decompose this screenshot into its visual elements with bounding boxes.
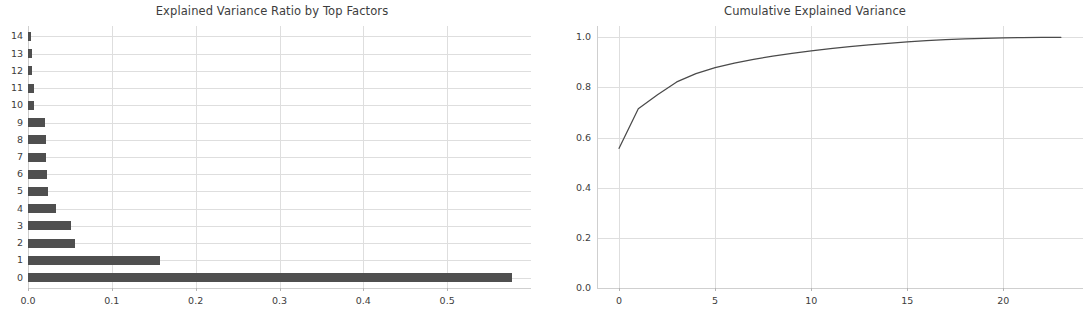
bar-factor-6 (28, 170, 47, 179)
x-tick-label: 15 (901, 296, 913, 306)
x-tick-label: 5 (712, 296, 718, 306)
gridline-vertical (280, 26, 281, 288)
bar-factor-5 (28, 187, 48, 196)
x-tick-label: 0.2 (188, 296, 203, 306)
bar-factor-12 (28, 66, 32, 75)
x-tickmark (907, 288, 908, 291)
y-tick-label: 10 (0, 101, 23, 111)
bar-factor-4 (28, 204, 56, 213)
bar-factor-14 (28, 32, 31, 41)
gridline-vertical (112, 26, 113, 288)
y-tick-label: 7 (0, 152, 23, 162)
bar-factor-11 (28, 84, 34, 93)
y-tick-label: 9 (0, 118, 23, 128)
bar-factor-0 (28, 273, 512, 282)
bar-factor-7 (28, 153, 46, 162)
y-tick-label: 1.0 (561, 33, 591, 43)
x-tickmark (112, 288, 113, 291)
y-tick-label: 0.8 (561, 83, 591, 93)
y-tick-label: 12 (0, 66, 23, 76)
bar-factor-1 (28, 256, 160, 265)
y-tick-label: 0 (0, 273, 23, 283)
explained-variance-bar-chart: Explained Variance Ratio by Top Factors … (0, 0, 544, 312)
cumulative-variance-curve (543, 0, 1087, 312)
bar-factor-8 (28, 135, 46, 144)
right-plot-area: 0.00.20.40.60.81.005101520 (543, 0, 1087, 312)
y-tick-label: 4 (0, 204, 23, 214)
x-tick-label: 0.0 (20, 296, 35, 306)
y-tick-label: 0.4 (561, 183, 591, 193)
x-tick-label: 0.4 (356, 296, 371, 306)
y-tick-label: 5 (0, 187, 23, 197)
y-tick-label: 8 (0, 135, 23, 145)
y-tick-label: 14 (0, 32, 23, 42)
figure-canvas: Explained Variance Ratio by Top Factors … (0, 0, 1087, 312)
x-tickmark (715, 288, 716, 291)
y-tick-label: 1 (0, 256, 23, 266)
y-tick-label: 0.6 (561, 133, 591, 143)
gridline-vertical (196, 26, 197, 288)
bar-factor-10 (28, 101, 34, 110)
bar-factor-13 (28, 49, 32, 58)
y-tick-label: 11 (0, 83, 23, 93)
x-tickmark (196, 288, 197, 291)
x-tick-label: 0.1 (104, 296, 119, 306)
x-tick-label: 0 (616, 296, 622, 306)
y-tick-label: 3 (0, 221, 23, 231)
y-tick-label: 0.0 (561, 283, 591, 293)
y-tick-label: 13 (0, 49, 23, 59)
x-tickmark (363, 288, 364, 291)
cumulative-variance-line-chart: Cumulative Explained Variance 0.00.20.40… (543, 0, 1087, 312)
x-tickmark (280, 288, 281, 291)
x-tickmark (28, 288, 29, 291)
x-tick-label: 0.5 (440, 296, 455, 306)
gridline-vertical (447, 26, 448, 288)
gridline-vertical (363, 26, 364, 288)
x-tickmark (619, 288, 620, 291)
bar-factor-9 (28, 118, 45, 127)
x-tickmark (1003, 288, 1004, 291)
x-tick-label: 0.3 (272, 296, 287, 306)
y-tick-label: 6 (0, 169, 23, 179)
x-tickmark (447, 288, 448, 291)
bar-factor-2 (28, 239, 75, 248)
x-tick-label: 20 (997, 296, 1009, 306)
x-tickmark (811, 288, 812, 291)
variance-line-path (619, 37, 1061, 148)
left-plot-area: 012345678910111213140.00.10.20.30.40.5 (0, 0, 544, 312)
bar-factor-3 (28, 221, 71, 230)
y-tick-label: 0.2 (561, 233, 591, 243)
y-tick-label: 2 (0, 238, 23, 248)
x-tick-label: 10 (805, 296, 817, 306)
